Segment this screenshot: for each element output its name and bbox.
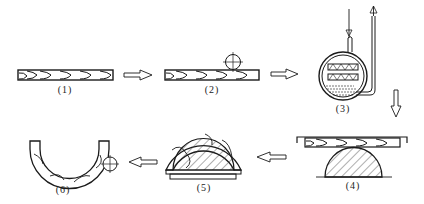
arrow-down-icon [391, 90, 401, 117]
arrow-right-icon [271, 69, 298, 79]
arrow-right-icon [124, 70, 152, 80]
process-diagram [0, 0, 424, 204]
step-3-steam-vessel [319, 6, 377, 100]
step-label-5: (5) [197, 182, 212, 193]
step-label-6: (6) [56, 184, 71, 195]
step-6-u-part [30, 141, 119, 189]
step-label-1: (1) [58, 84, 73, 95]
step-4-clamp-mold [297, 137, 407, 177]
step-5-bent-on-mold [166, 134, 241, 179]
arrow-left-icon [129, 157, 157, 167]
arrow-left-icon [257, 152, 286, 162]
step-2-strip-roller [165, 52, 259, 80]
step-label-4: (4) [346, 180, 361, 191]
step-1-strip [18, 70, 113, 80]
step-label-2: (2) [205, 84, 220, 95]
step-label-3: (3) [336, 103, 351, 114]
